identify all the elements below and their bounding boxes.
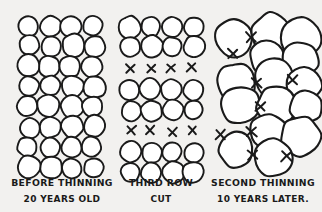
- tree-crown: [40, 76, 60, 95]
- tree-crown: [122, 101, 141, 121]
- tree-crown: [161, 79, 182, 100]
- tree-crown: [37, 95, 59, 117]
- tree-crown: [83, 76, 105, 97]
- tree-crown: [139, 78, 160, 100]
- tree-crown: [40, 117, 61, 138]
- tree-crown: [83, 16, 102, 36]
- thinning-diagram: BEFORE THINNING 20 YEARS OLD THIRD ROW C…: [0, 0, 322, 212]
- tree-crown: [40, 157, 62, 179]
- tree-crown: [163, 37, 182, 56]
- caption-second-line2: 10 YEARS LATER.: [217, 194, 309, 204]
- caption-before-line1: BEFORE THINNING: [11, 177, 113, 188]
- tree-crown: [59, 56, 79, 76]
- crown-clusters-second: [215, 12, 322, 176]
- tree-crown: [81, 56, 102, 77]
- tree-crown: [61, 95, 84, 118]
- tree-crown: [62, 159, 81, 179]
- tree-crown: [184, 18, 204, 37]
- tree-crown: [20, 118, 40, 139]
- tree-crown: [162, 17, 182, 37]
- tree-crown: [183, 80, 203, 101]
- tree-crown: [19, 76, 39, 95]
- tree-crown: [41, 138, 61, 158]
- tree-crown: [119, 16, 141, 39]
- tree-crown: [184, 36, 206, 57]
- caption-second-line1: SECOND THINNING: [211, 177, 315, 188]
- tree-crown: [84, 158, 104, 177]
- tree-crown: [82, 97, 102, 117]
- tree-crown: [142, 17, 160, 37]
- tree-crown: [221, 87, 260, 123]
- caption-cut-line1: THIRD ROW: [129, 177, 193, 188]
- tree-crown: [120, 141, 141, 163]
- tree-crown: [17, 96, 37, 116]
- tree-crown: [120, 37, 140, 57]
- tree-crown: [18, 156, 41, 179]
- tree-crown: [40, 16, 61, 37]
- caption-before-line2: 20 YEARS OLD: [24, 194, 101, 204]
- tree-crown: [119, 80, 139, 100]
- tree-crown: [18, 16, 37, 36]
- tree-crown: [162, 142, 181, 161]
- tree-crown: [141, 35, 163, 58]
- tree-crown: [39, 56, 59, 78]
- figure-canvas: BEFORE THINNING 20 YEARS OLD THIRD ROW C…: [0, 0, 322, 212]
- tree-crown: [141, 101, 162, 122]
- tree-crown: [184, 143, 203, 162]
- tree-crown: [61, 137, 81, 158]
- tree-crown: [142, 143, 162, 163]
- tree-crown: [17, 54, 39, 76]
- tree-crown: [82, 137, 101, 157]
- tree-crown: [63, 34, 85, 58]
- caption-cut-line2: CUT: [150, 194, 172, 204]
- tree-crown: [185, 101, 203, 120]
- tree-crown: [84, 115, 105, 137]
- tree-crown: [163, 100, 184, 121]
- tree-crown: [84, 36, 105, 57]
- tree-crown: [20, 35, 40, 55]
- tree-crown: [42, 36, 61, 56]
- tree-crown: [17, 137, 36, 156]
